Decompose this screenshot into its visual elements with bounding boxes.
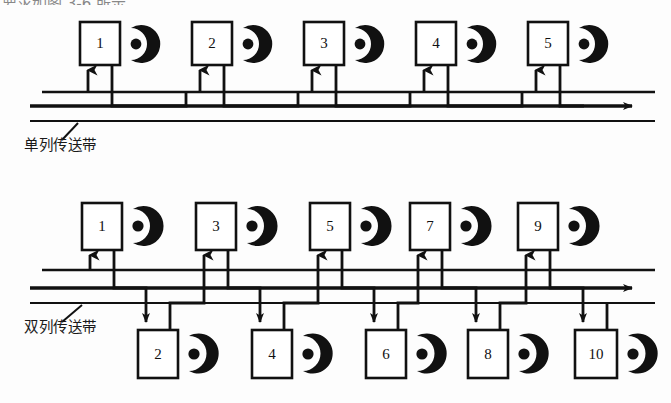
robot-gripper-dot-icon <box>579 39 590 50</box>
station-number-6: 6 <box>382 346 390 362</box>
station-number-4: 4 <box>432 35 440 51</box>
figure-canvas: 要求如图 3-6 所示。 <box>0 0 671 403</box>
station-number-1: 1 <box>96 35 104 51</box>
station-number-2: 2 <box>154 346 162 362</box>
robot-gripper-dot-icon <box>627 348 638 359</box>
station-number-5: 5 <box>544 35 552 51</box>
station-number-3: 3 <box>320 35 328 51</box>
station-number-9: 9 <box>534 218 542 234</box>
robot-gripper-dot-icon <box>246 220 257 231</box>
branch-1-to-2 <box>114 250 146 322</box>
station-number-5: 5 <box>326 218 334 234</box>
station-2[interactable]: 2 <box>192 22 272 65</box>
robot-gripper-dot-icon <box>132 220 143 231</box>
station-10[interactable]: 10 <box>575 330 658 378</box>
station-3[interactable]: 3 <box>196 203 278 250</box>
station-number-4: 4 <box>268 346 276 362</box>
station-number-8: 8 <box>484 346 492 362</box>
station-9[interactable]: 9 <box>518 203 600 250</box>
conveyor-layout-figure: 1 2 3 4 <box>0 0 671 403</box>
branch-9-to-10 <box>550 250 583 322</box>
station-1[interactable]: 1 <box>80 22 160 65</box>
label-double-row-conveyor: 双列传送带 <box>24 315 97 336</box>
robot-gripper-dot-icon <box>302 348 313 359</box>
robot-gripper-dot-icon <box>243 39 254 50</box>
station-6[interactable]: 6 <box>366 330 447 378</box>
branch-paths-single <box>88 65 584 106</box>
robot-gripper-dot-icon <box>131 39 142 50</box>
station-number-1: 1 <box>98 218 106 234</box>
branch-6-to-7 <box>398 270 418 330</box>
station-7[interactable]: 7 <box>410 203 492 250</box>
robot-gripper-dot-icon <box>355 39 366 50</box>
station-5[interactable]: 5 <box>528 22 608 65</box>
label-single-row-conveyor: 单列传送带 <box>24 133 97 154</box>
diagram-single-row-conveyor: 1 2 3 4 <box>30 22 655 140</box>
branch-out-3 <box>336 65 410 106</box>
robot-gripper-dot-icon <box>360 220 371 231</box>
branch-4-to-5 <box>284 270 318 330</box>
station-4[interactable]: 4 <box>416 22 496 65</box>
branch-3-to-4 <box>228 250 260 322</box>
branch-paths-double <box>90 250 607 330</box>
branch-out-2 <box>224 65 298 106</box>
diagram-double-row-conveyor: 1 3 5 7 <box>30 203 658 378</box>
robot-gripper-dot-icon <box>568 220 579 231</box>
stations-single: 1 2 3 4 <box>80 22 608 65</box>
station-number-3: 3 <box>212 218 220 234</box>
station-3[interactable]: 3 <box>304 22 384 65</box>
branch-5-to-6 <box>342 250 374 322</box>
station-number-10: 10 <box>589 346 604 362</box>
station-1[interactable]: 1 <box>82 203 164 250</box>
station-8[interactable]: 8 <box>468 330 549 378</box>
branch-2-to-3 <box>170 270 204 330</box>
stations-double-bottom: 2 4 6 8 <box>138 330 658 378</box>
branch-7-to-8 <box>442 250 476 322</box>
robot-gripper-dot-icon <box>460 220 471 231</box>
robot-gripper-dot-icon <box>467 39 478 50</box>
station-number-2: 2 <box>208 35 216 51</box>
branch-out-1 <box>112 65 186 106</box>
branch-8-to-9 <box>500 270 526 330</box>
station-4[interactable]: 4 <box>252 330 333 378</box>
station-5[interactable]: 5 <box>310 203 392 250</box>
robot-gripper-dot-icon <box>188 348 199 359</box>
robot-gripper-dot-icon <box>518 348 529 359</box>
station-number-7: 7 <box>426 218 434 234</box>
branch-out-5 <box>560 65 584 106</box>
robot-gripper-dot-icon <box>416 348 427 359</box>
stations-double-top: 1 3 5 7 <box>82 203 600 250</box>
branch-out-4 <box>448 65 522 106</box>
station-2[interactable]: 2 <box>138 330 219 378</box>
